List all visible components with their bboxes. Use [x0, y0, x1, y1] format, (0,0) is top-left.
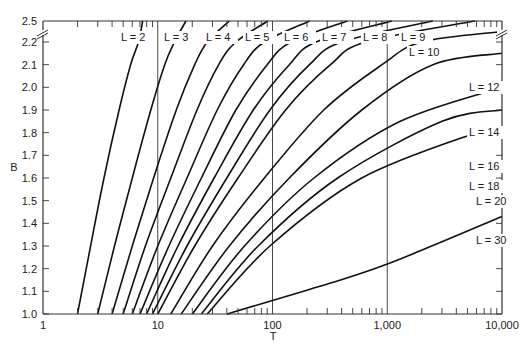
- y-tick-label: 1.6: [22, 172, 37, 184]
- y-tick-label: 1.2: [22, 263, 37, 275]
- x-axis-label: T: [270, 330, 277, 342]
- curve-label: L = 10: [409, 46, 439, 58]
- curve-label: L = 12: [469, 81, 499, 93]
- y-tick-label: 2.0: [22, 81, 37, 93]
- curve-l18: [201, 110, 502, 314]
- curve-label: L = 7: [322, 31, 346, 43]
- y-tick-label: 2.2: [22, 36, 37, 48]
- curve-l10: [158, 21, 475, 314]
- curve-label: L = 5: [245, 31, 269, 43]
- y-tick-label: 2.1: [22, 59, 37, 71]
- tick-labels: 1101001,00010,0001.01.11.21.31.41.51.61.…: [22, 15, 519, 331]
- curve-l20: [207, 128, 502, 314]
- y-tick-label: 1.3: [22, 240, 37, 252]
- curve-labels: L = 2L = 3L = 4L = 5L = 6L = 7L = 8L = 9…: [119, 31, 514, 247]
- curve-label: L = 3: [164, 31, 188, 43]
- y-tick-label: 1.8: [22, 127, 37, 139]
- y-tick-label: 1.7: [22, 149, 37, 161]
- y-tick-label: 1.1: [22, 285, 37, 297]
- y-tick-label: 1.5: [22, 195, 37, 207]
- curve-l3: [98, 21, 186, 314]
- curve-label: L = 8: [363, 31, 387, 43]
- curve-label: L = 30: [476, 234, 506, 246]
- curve-l12: [171, 32, 502, 315]
- curve-l2: [78, 21, 143, 314]
- x-tick-label: 10,000: [485, 319, 519, 331]
- curve-label: L = 14: [469, 126, 499, 138]
- curve-label: L = 20: [476, 195, 506, 207]
- x-tick-label: 1,000: [373, 319, 401, 331]
- curve-label: L = 18: [469, 180, 499, 192]
- curve-l30: [227, 217, 502, 315]
- y-axis-label: B: [10, 161, 17, 173]
- curve-label: L = 2: [121, 31, 145, 43]
- curve-label: L = 4: [206, 31, 230, 43]
- curve-label: L = 9: [401, 31, 425, 43]
- curve-label: L = 16: [469, 160, 499, 172]
- y-tick-label: 1.4: [22, 217, 37, 229]
- x-tick-label: 1: [40, 319, 46, 331]
- y-tick-label: 1.0: [22, 308, 37, 320]
- y-tick-label: 2.5: [22, 15, 37, 27]
- x-tick-label: 10: [152, 319, 164, 331]
- curve-l14: [181, 53, 502, 314]
- chart: 1101001,00010,0001.01.11.21.31.41.51.61.…: [0, 0, 530, 354]
- curves: [78, 21, 503, 314]
- y-tick-label: 1.9: [22, 104, 37, 116]
- curve-label: L = 6: [284, 31, 308, 43]
